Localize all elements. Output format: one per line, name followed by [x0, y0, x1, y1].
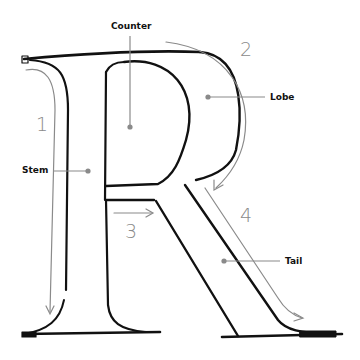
tail-end: [300, 331, 336, 337]
label-stem: Stem: [22, 166, 48, 175]
arrow-1: [26, 69, 55, 312]
baseline-cap: [22, 332, 36, 337]
stroke-number-3: 3: [125, 222, 137, 241]
stem-left: [30, 60, 68, 290]
counter-inner: [106, 61, 189, 186]
tail-dot: [221, 258, 226, 263]
lobe-dot: [205, 94, 210, 99]
top-serif: [24, 51, 200, 59]
letter-r-diagram: [0, 0, 360, 360]
leg-outer: [185, 185, 330, 334]
stroke-number-1: 1: [36, 115, 48, 134]
stem-dot: [85, 168, 90, 173]
arrow-2: [166, 42, 246, 188]
arrow-4: [205, 188, 302, 318]
counter-top-left: [106, 62, 124, 72]
label-counter: Counter: [111, 22, 151, 31]
lobe-outer: [196, 52, 240, 180]
label-tail: Tail: [285, 257, 302, 266]
leg-inner: [156, 201, 238, 336]
stroke-number-2: 2: [240, 40, 252, 59]
stem-right-upper: [105, 72, 106, 200]
counter-dot: [127, 124, 132, 129]
stem-foot-left: [24, 300, 64, 334]
stroke-number-4: 4: [240, 206, 252, 225]
label-lobe: Lobe: [270, 93, 294, 102]
